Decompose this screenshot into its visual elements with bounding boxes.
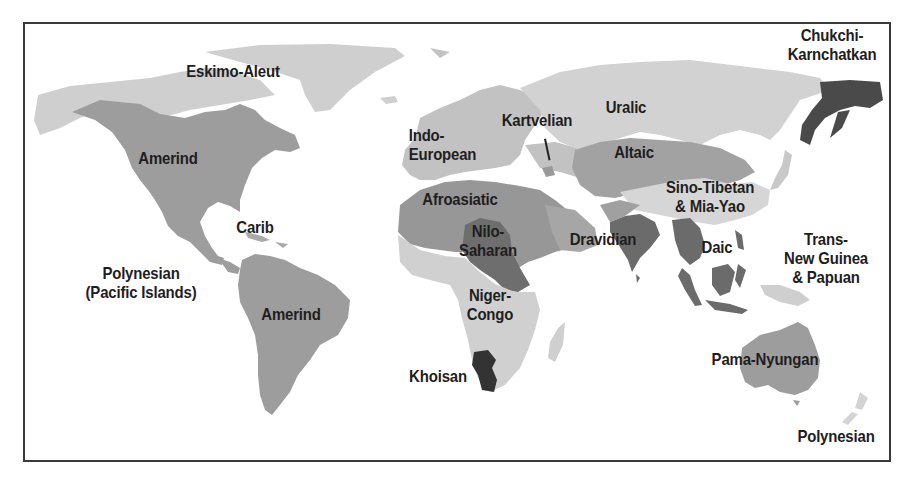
label-amerind-south: Amerind — [253, 305, 329, 324]
region-trans-new-guinea — [760, 285, 810, 306]
label-khoisan: Khoisan — [403, 367, 473, 386]
label-eskimo-aleut: Eskimo-Aleut — [176, 62, 290, 81]
label-niger-congo: Niger- Congo — [455, 286, 525, 324]
label-nilo-saharan: Nilo- Saharan — [453, 222, 523, 260]
label-polynesian-pacific: Polynesian (Pacific Islands) — [75, 264, 207, 302]
label-pama-nyungan: Pama-Nyungan — [708, 350, 822, 369]
label-amerind-north: Amerind — [133, 149, 203, 168]
label-trans-new-guinea: Trans- New Guinea & Papuan — [777, 230, 876, 287]
region-japan — [770, 150, 792, 190]
label-afroasiatic: Afroasiatic — [407, 190, 513, 209]
region-amerind-south — [238, 254, 350, 415]
label-uralic: Uralic — [594, 98, 657, 117]
region-polynesian-nz — [842, 392, 868, 425]
label-chukchi-karnchatkan: Chukchi- Karnchatkan — [779, 26, 885, 64]
region-daic — [672, 218, 748, 314]
region-amerind-north — [72, 100, 300, 274]
label-sino-tibetan: Sino-Tibetan & Mia-Yao — [653, 178, 767, 216]
label-dravidian: Dravidian — [555, 230, 652, 249]
label-daic: Daic — [695, 238, 739, 257]
label-kartvelian: Kartvelian — [489, 111, 586, 130]
region-madagascar — [548, 322, 565, 362]
label-carib: Carib — [229, 218, 282, 237]
region-uralic — [520, 60, 830, 150]
label-polynesian: Polynesian — [787, 427, 886, 446]
label-altaic: Altaic — [602, 143, 665, 162]
label-indo-european: Indo- European — [409, 126, 508, 164]
